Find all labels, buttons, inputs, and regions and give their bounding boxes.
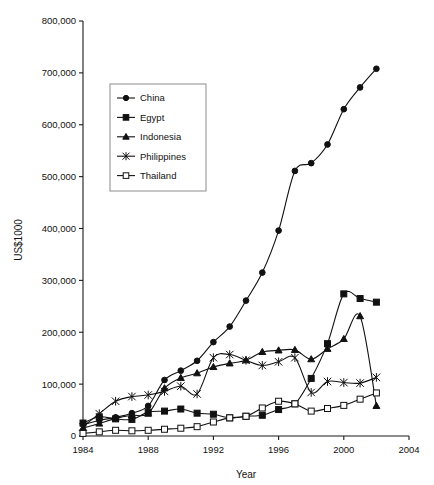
marker-open-square <box>259 405 265 411</box>
legend-entry-label: Egypt <box>140 112 165 123</box>
marker-open-square <box>162 426 168 432</box>
x-tick-label: 1984 <box>72 444 93 455</box>
marker-filled-circle <box>211 339 217 345</box>
marker-filled-triangle <box>373 402 380 408</box>
series-indonesia <box>80 313 380 431</box>
marker-asterisk <box>112 397 120 406</box>
y-tick-label: 300,000 <box>42 275 76 286</box>
marker-filled-circle <box>145 403 151 409</box>
marker-open-square <box>292 401 298 407</box>
y-tick-label: 0 <box>71 430 76 441</box>
marker-filled-square <box>276 407 282 413</box>
marker-filled-circle <box>308 160 314 166</box>
marker-asterisk <box>275 358 283 367</box>
marker-open-square <box>210 419 216 425</box>
marker-open-square <box>96 429 102 435</box>
y-tick-label: 200,000 <box>42 327 76 338</box>
marker-open-square <box>129 428 135 434</box>
y-tick-label: 400,000 <box>42 223 76 234</box>
y-tick-label: 600,000 <box>42 119 76 130</box>
marker-open-square <box>325 406 331 412</box>
chart-canvas: 0100,000200,000300,000400,000500,000600,… <box>0 0 434 485</box>
marker-filled-square <box>341 291 347 297</box>
marker-filled-circle <box>374 66 380 72</box>
marker-open-square <box>276 398 282 404</box>
marker-filled-circle <box>341 106 347 112</box>
marker-open-square <box>113 427 119 433</box>
chart-legend: ChinaEgyptIndonesiaPhilippinesThailand <box>110 84 206 191</box>
line-chart: 0100,000200,000300,000400,000500,000600,… <box>0 0 434 485</box>
marker-open-square <box>341 402 347 408</box>
marker-open-square <box>243 413 249 419</box>
marker-filled-square <box>123 115 129 121</box>
marker-filled-circle <box>178 368 184 374</box>
marker-filled-circle <box>292 168 298 174</box>
marker-asterisk <box>307 388 315 397</box>
marker-filled-circle <box>325 142 331 148</box>
marker-open-square <box>357 396 363 402</box>
marker-filled-square <box>259 412 265 418</box>
marker-filled-square <box>373 299 379 305</box>
x-tick-label: 1992 <box>203 444 224 455</box>
y-tick-label: 100,000 <box>42 379 76 390</box>
marker-asterisk <box>291 353 299 362</box>
x-axis-title: Year <box>236 469 257 480</box>
marker-asterisk <box>242 356 250 365</box>
legend-entry-label: Philippines <box>140 151 186 162</box>
marker-filled-square <box>178 406 184 412</box>
x-tick-label: 2000 <box>333 444 354 455</box>
marker-filled-circle <box>162 377 168 383</box>
marker-filled-circle <box>227 324 233 330</box>
legend-entry-label: Indonesia <box>140 131 182 142</box>
series-line-thailand <box>83 393 376 433</box>
marker-asterisk <box>193 390 201 399</box>
marker-filled-circle <box>276 228 282 234</box>
legend-entry-label: Thailand <box>140 170 176 181</box>
x-tick-label: 1988 <box>138 444 159 455</box>
marker-open-square <box>227 415 233 421</box>
marker-open-square <box>308 408 314 414</box>
x-tick-label: 2004 <box>398 444 419 455</box>
marker-filled-square <box>194 410 200 416</box>
marker-asterisk <box>210 353 218 362</box>
series-thailand <box>80 390 379 436</box>
series-line-indonesia <box>83 314 376 428</box>
legend-entry-label: China <box>140 92 166 103</box>
marker-filled-circle <box>357 85 363 91</box>
y-tick-label: 500,000 <box>42 171 76 182</box>
y-axis: 0100,000200,000300,000400,000500,000600,… <box>42 15 83 441</box>
marker-filled-square <box>308 375 314 381</box>
marker-asterisk <box>373 373 381 382</box>
marker-open-square <box>123 173 129 179</box>
marker-open-square <box>194 424 200 430</box>
marker-filled-circle <box>123 95 128 100</box>
marker-filled-triangle <box>340 335 347 341</box>
marker-filled-square <box>162 408 168 414</box>
marker-filled-square <box>357 296 363 302</box>
y-tick-label: 800,000 <box>42 15 76 26</box>
y-tick-label: 700,000 <box>42 67 76 78</box>
y-axis-title: US$1000 <box>13 219 24 261</box>
marker-open-square <box>80 430 86 436</box>
marker-open-square <box>178 425 184 431</box>
marker-open-square <box>145 427 151 433</box>
marker-filled-circle <box>194 358 200 364</box>
marker-filled-circle <box>243 298 249 304</box>
marker-filled-circle <box>259 270 265 276</box>
marker-open-square <box>373 390 379 396</box>
x-tick-label: 1996 <box>268 444 289 455</box>
marker-filled-square <box>210 411 216 417</box>
x-axis: 198419881992199620002004 <box>72 436 419 455</box>
